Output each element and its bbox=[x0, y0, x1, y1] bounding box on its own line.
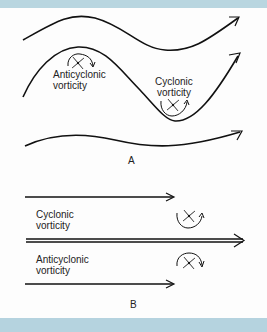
label-line: vorticity bbox=[36, 220, 74, 231]
label-line: Anticyclonic bbox=[53, 69, 106, 80]
label-line: Cyclonic bbox=[36, 209, 74, 220]
pinwheel-cyclonic-icon bbox=[177, 210, 204, 228]
pinwheel-anticyclonic-icon bbox=[177, 253, 204, 269]
label-cyclonic-vorticity-a: Cyclonic vorticity bbox=[155, 76, 193, 98]
bottom-border-band bbox=[0, 318, 267, 332]
label-line: vorticity bbox=[155, 87, 193, 98]
diagram-drawing bbox=[0, 0, 267, 332]
arrow-middle-jet bbox=[26, 234, 244, 247]
arrow-top bbox=[25, 193, 174, 201]
caption-b: B bbox=[130, 299, 137, 310]
caption-a: A bbox=[128, 155, 135, 166]
label-line: vorticity bbox=[53, 80, 106, 91]
streamline-top bbox=[23, 16, 239, 50]
label-line: vorticity bbox=[36, 265, 89, 276]
pinwheel-anticyclonic-icon bbox=[68, 54, 95, 69]
streamline-bottom bbox=[25, 131, 242, 146]
pinwheel-cyclonic-icon bbox=[161, 99, 189, 116]
label-cyclonic-vorticity-b: Cyclonic vorticity bbox=[36, 209, 74, 231]
arrow-bottom bbox=[25, 280, 174, 288]
label-anticyclonic-vorticity-b: Anticyclonic vorticity bbox=[36, 254, 89, 276]
vorticity-diagram: Anticyclonic vorticity Cyclonic vorticit… bbox=[0, 0, 267, 332]
label-line: Anticyclonic bbox=[36, 254, 89, 265]
label-line: Cyclonic bbox=[155, 76, 193, 87]
label-anticyclonic-vorticity-a: Anticyclonic vorticity bbox=[53, 69, 106, 91]
